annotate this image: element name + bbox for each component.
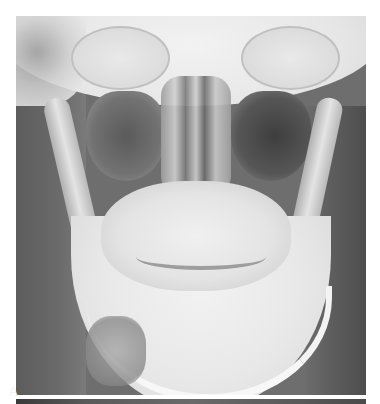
left-maxillary-sinus [86, 91, 166, 181]
occlusal-line [136, 244, 266, 270]
hyoid-region [86, 316, 146, 386]
figure: A [0, 0, 380, 404]
radiograph-panel-a [16, 16, 366, 395]
nasal-cavity [161, 76, 231, 196]
right-orbit [241, 26, 340, 90]
left-orbit [71, 26, 170, 90]
dentition [101, 181, 291, 291]
next-panel-strip [16, 399, 366, 404]
panel-label: A [9, 384, 18, 399]
right-maxillary-sinus [231, 91, 311, 181]
